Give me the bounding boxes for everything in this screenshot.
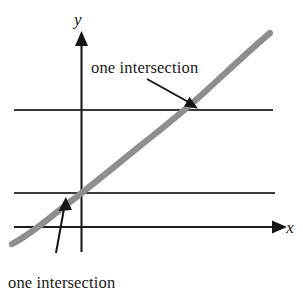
upper-annotation-label: one intersection	[91, 58, 198, 77]
y-axis-label: y	[72, 10, 82, 29]
x-axis-arrowhead-icon	[272, 221, 287, 234]
upper-pointer-line	[147, 79, 192, 104]
x-axis-label: x	[285, 218, 294, 237]
function-intersection-figure: y x one intersection one intersection	[0, 0, 303, 300]
lower-annotation-label: one intersection	[8, 273, 115, 292]
y-axis-arrowhead-icon	[75, 31, 88, 46]
figure-canvas: y x one intersection one intersection	[0, 0, 303, 300]
